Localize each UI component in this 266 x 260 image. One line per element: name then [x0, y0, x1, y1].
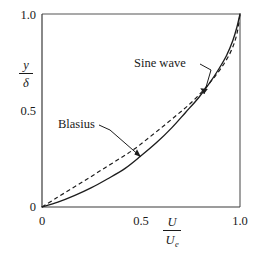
y-axis-label-numerator: y	[21, 58, 29, 72]
x-axis-label: U U e	[163, 215, 181, 249]
annotation-blasius-arrowhead	[134, 149, 141, 157]
curve-blasius	[42, 14, 240, 207]
y-tick-label-0: 0	[30, 200, 36, 214]
curve-sine-wave	[42, 14, 240, 207]
velocity-profile-chart: 1.0 0.5 0 0 0.5 1.0 y δ U U e Sine wave …	[0, 0, 266, 260]
y-axis-label: y δ	[19, 58, 33, 90]
annotation-sine-wave-label: Sine wave	[134, 56, 186, 70]
annotation-sine-wave: Sine wave	[134, 56, 211, 94]
x-axis-label-denominator: U	[165, 233, 175, 247]
annotation-blasius-label: Blasius	[58, 117, 95, 131]
x-tick-label-05: 0.5	[133, 214, 149, 228]
y-tick-label-05: 0.5	[20, 104, 36, 118]
figure-container: 1.0 0.5 0 0 0.5 1.0 y δ U U e Sine wave …	[0, 0, 266, 260]
x-tick-label-1: 1.0	[232, 214, 248, 228]
annotation-blasius: Blasius	[58, 117, 141, 157]
x-axis-label-denominator-subscript: e	[175, 239, 179, 249]
annotation-blasius-leader	[99, 125, 141, 157]
y-axis-label-denominator: δ	[23, 76, 29, 90]
plot-frame-border	[42, 14, 240, 207]
y-tick-label-1: 1.0	[20, 8, 36, 22]
x-tick-label-0: 0	[39, 214, 45, 228]
x-axis-label-numerator: U	[167, 215, 177, 229]
